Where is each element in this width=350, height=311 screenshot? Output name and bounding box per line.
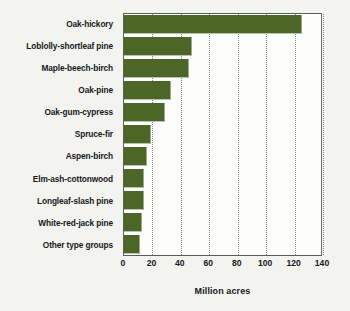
x-tick-label: 100 [258,258,272,268]
bar [124,125,151,144]
category-label: Spruce-fir [0,123,118,145]
bar-series [124,14,321,255]
category-label: Elm-ash-cottonwood [0,168,118,190]
plot-area [123,13,322,256]
bar-row [124,189,321,211]
bar-row [124,124,321,146]
bar-row [124,14,321,36]
bar [124,81,171,100]
x-tick-label: 20 [147,258,157,268]
bar [124,103,165,122]
bar [124,213,142,232]
bar-chart-figure: Oak-hickory Loblolly-shortleaf pine Mapl… [0,0,350,311]
category-label: Longleaf-slash pine [0,190,118,212]
bar [124,147,147,166]
x-tick-label: 60 [204,258,214,268]
bar-row [124,58,321,80]
category-label: Oak-hickory [0,13,118,35]
category-label: Oak-gum-cypress [0,101,118,123]
category-label: Aspen-birch [0,146,118,168]
x-tick-label: 80 [232,258,242,268]
x-tick-label: 40 [175,258,185,268]
bar [124,191,144,210]
bar [124,15,302,34]
bar [124,37,192,56]
bar-row [124,145,321,167]
category-label: Oak-pine [0,79,118,101]
bar-row [124,167,321,189]
bar-row [124,36,321,58]
x-axis-title: Million acres [123,286,322,296]
gridline [323,14,324,255]
category-label: Other type groups [0,234,118,256]
x-tick-label: 120 [286,258,300,268]
bar-row [124,102,321,124]
x-tick-label: 140 [315,258,329,268]
bar [124,169,144,188]
bar-row [124,233,321,255]
category-label: White-red-jack pine [0,212,118,234]
x-tick-label: 0 [121,258,126,268]
category-axis-labels: Oak-hickory Loblolly-shortleaf pine Mapl… [0,13,118,256]
bar-row [124,211,321,233]
category-label: Maple-beech-birch [0,57,118,79]
bar-row [124,80,321,102]
bar [124,59,189,78]
bar [124,235,140,254]
category-label: Loblolly-shortleaf pine [0,35,118,57]
x-axis-ticks: 020406080100120140 [123,258,322,272]
